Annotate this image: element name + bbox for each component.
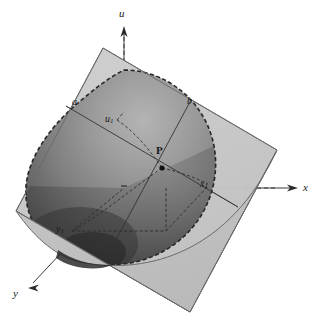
- axis-label-x: x: [303, 182, 308, 193]
- point-P-marker: [159, 165, 164, 170]
- point-label-a: a: [72, 97, 77, 107]
- point-label-u1: u1: [105, 114, 114, 125]
- point-label-y1: y1: [56, 224, 64, 235]
- point-label-x1-subscript: 1: [204, 182, 208, 190]
- point-label-u1-subscript: 1: [110, 117, 114, 125]
- point-label-x1: x1: [200, 179, 208, 190]
- geometry-figure: u x y a b u1 P x1 y1: [0, 0, 330, 329]
- y-axis-arrowhead: [28, 285, 39, 292]
- axis-label-u: u: [119, 8, 125, 19]
- point-label-b: b: [187, 96, 192, 106]
- point-label-P: P: [156, 145, 163, 156]
- figure-canvas: [0, 0, 330, 329]
- axis-label-y: y: [13, 288, 18, 299]
- point-label-y1-subscript: 1: [60, 227, 64, 235]
